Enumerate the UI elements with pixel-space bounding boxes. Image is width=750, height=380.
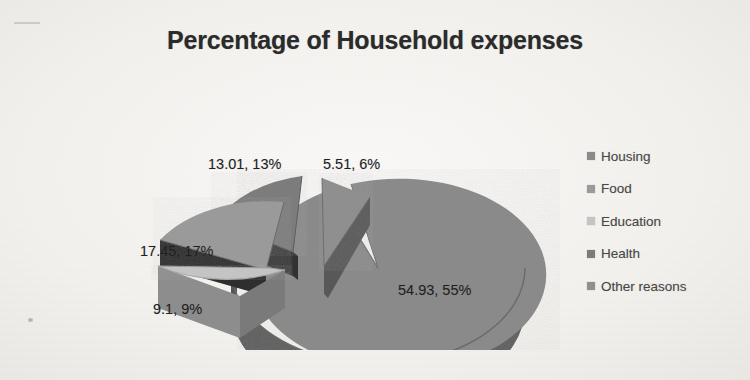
legend-swatch-icon-other-reasons xyxy=(587,282,595,290)
data-label-health: 13.01, 13% xyxy=(208,156,281,172)
legend-label-food: Food xyxy=(601,181,632,196)
legend-label-housing: Housing xyxy=(601,149,651,164)
pie-chart-plot-area: 13.01, 13% 5.51, 6% 17.45, 17% 9.1, 9% 5… xyxy=(40,70,560,350)
legend-item-health[interactable]: Health xyxy=(587,246,737,262)
legend-swatch-icon-housing xyxy=(587,152,595,160)
legend-item-food[interactable]: Food xyxy=(587,181,737,197)
chart-title: Percentage of Household expenses xyxy=(0,26,750,55)
legend-swatch-icon-education xyxy=(587,217,595,225)
data-label-other: 5.51, 6% xyxy=(323,156,380,172)
pie-chart-graphic xyxy=(40,70,560,350)
legend-label-health: Health xyxy=(601,246,640,261)
legend-item-education[interactable]: Education xyxy=(587,213,737,229)
data-label-education: 9.1, 9% xyxy=(153,301,202,317)
legend-swatch-icon-food xyxy=(587,185,595,193)
scan-artifact-top-left xyxy=(14,22,40,24)
legend-label-other-reasons: Other reasons xyxy=(601,279,687,294)
legend-item-other-reasons[interactable]: Other reasons xyxy=(587,278,737,294)
chart-legend: Housing Food Education Health Other reas… xyxy=(587,148,737,311)
data-label-housing: 54.93, 55% xyxy=(398,282,471,298)
legend-item-housing[interactable]: Housing xyxy=(587,148,737,164)
data-label-food: 17.45, 17% xyxy=(140,243,213,259)
scan-artifact-bottom-left xyxy=(28,318,33,322)
legend-swatch-icon-health xyxy=(587,250,595,258)
legend-label-education: Education xyxy=(601,214,661,229)
